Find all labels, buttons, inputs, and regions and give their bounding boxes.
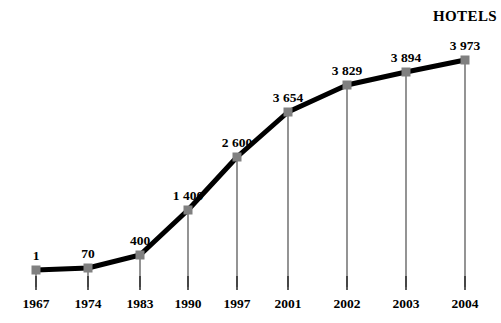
value-label-2003: 3 894 (391, 50, 421, 66)
x-axis-label-1967: 1967 (23, 296, 50, 312)
value-label-1974: 70 (81, 246, 95, 262)
data-marker-2002[interactable] (343, 81, 352, 90)
x-axis-label-1997: 1997 (224, 296, 251, 312)
x-axis-label-1974: 1974 (75, 296, 102, 312)
dropline-group (36, 60, 465, 287)
x-axis-label-2003: 2003 (393, 296, 420, 312)
value-label-1967: 1 (33, 248, 40, 264)
hotels-line-chart: HOTELS 1704001 4002 6003 6543 8293 8943 … (0, 0, 501, 323)
value-label-2002: 3 829 (332, 63, 362, 79)
x-axis-label-1990: 1990 (175, 296, 202, 312)
axis-tick-group (36, 276, 465, 290)
data-marker-1967[interactable] (32, 266, 41, 275)
x-axis-label-2004: 2004 (452, 296, 479, 312)
data-marker-2003[interactable] (402, 68, 411, 77)
x-axis-label-2002: 2002 (334, 296, 361, 312)
data-marker-2004[interactable] (461, 56, 470, 65)
value-label-2004: 3 973 (450, 38, 480, 54)
x-axis-label-1983: 1983 (127, 296, 154, 312)
value-label-1990: 1 400 (173, 188, 203, 204)
data-marker-1997[interactable] (233, 153, 242, 162)
data-marker-2001[interactable] (284, 108, 293, 117)
value-label-1983: 400 (130, 233, 150, 249)
data-marker-1990[interactable] (184, 206, 193, 215)
x-axis-label-2001: 2001 (275, 296, 302, 312)
series-line-hotels (36, 60, 465, 270)
chart-title: HOTELS (433, 8, 497, 25)
data-marker-1974[interactable] (84, 264, 93, 273)
chart-plot-area (0, 0, 501, 323)
data-marker-1983[interactable] (136, 251, 145, 260)
data-marker-group (32, 56, 470, 275)
value-label-1997: 2 600 (222, 135, 252, 151)
value-label-2001: 3 654 (273, 90, 303, 106)
